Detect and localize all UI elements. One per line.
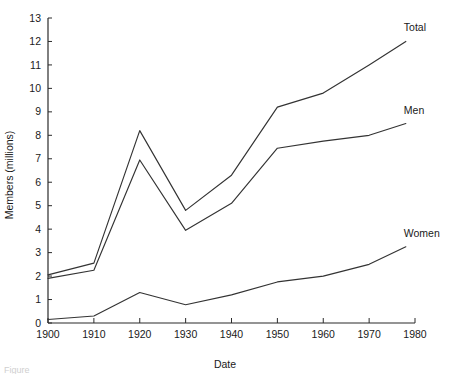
- y-tick-label: 8: [35, 129, 41, 141]
- y-tick-label: 11: [30, 59, 41, 71]
- y-tick-label: 0: [35, 317, 41, 329]
- y-tick-label: 6: [35, 176, 41, 188]
- x-tick-label: 1930: [174, 328, 198, 340]
- y-axis-title: Members (millions): [3, 131, 15, 220]
- figure-caption: Figure: [4, 365, 30, 374]
- x-axis-title: Date: [214, 358, 236, 370]
- series-line-women: [48, 247, 406, 320]
- y-axis: 012345678910111213: [29, 12, 52, 329]
- series-labels: TotalMenWomen: [404, 21, 440, 238]
- series-line-total: [48, 41, 406, 274]
- x-tick-label: 1940: [220, 328, 244, 340]
- y-tick-label: 3: [35, 246, 41, 258]
- y-tick-label: 1: [35, 293, 41, 305]
- x-tick-label: 1910: [82, 328, 106, 340]
- y-tick-label: 9: [35, 105, 41, 117]
- y-tick-label: 13: [29, 12, 41, 24]
- y-tick-label: 7: [35, 152, 41, 164]
- x-tick-label: 1960: [312, 328, 336, 340]
- y-tick-label: 12: [29, 35, 41, 47]
- line-chart: 012345678910111213 190019101920193019401…: [0, 0, 451, 374]
- x-tick-label: 1970: [357, 328, 381, 340]
- series-label-total: Total: [404, 21, 426, 33]
- x-tick-label: 1920: [128, 328, 152, 340]
- data-series-group: [48, 41, 406, 319]
- x-tick-label: 1950: [266, 328, 290, 340]
- series-label-men: Men: [404, 104, 425, 116]
- x-axis: 190019101920193019401950196019701980: [36, 318, 427, 340]
- x-tick-label: 1900: [36, 328, 60, 340]
- x-tick-label: 1980: [403, 328, 427, 340]
- y-tick-label: 4: [35, 223, 41, 235]
- y-tick-label: 5: [35, 199, 41, 211]
- y-tick-label: 10: [29, 82, 41, 94]
- chart-canvas: 012345678910111213 190019101920193019401…: [0, 0, 451, 374]
- y-tick-label: 2: [35, 270, 41, 282]
- series-line-men: [48, 124, 406, 279]
- series-label-women: Women: [404, 227, 440, 239]
